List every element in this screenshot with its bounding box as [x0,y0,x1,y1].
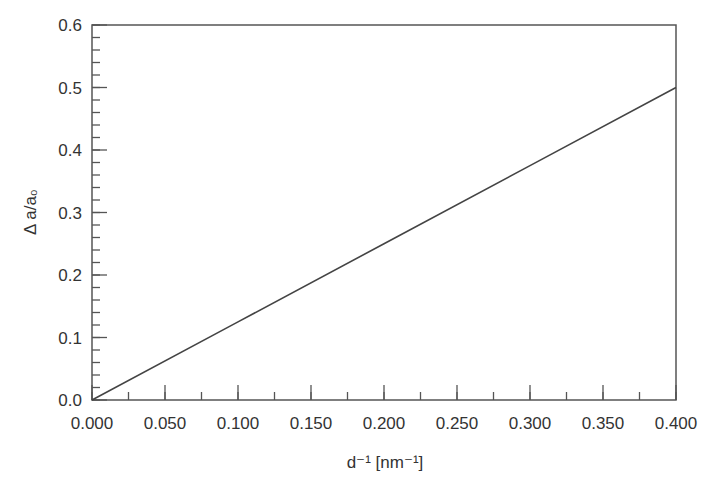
y-axis-label: Δ a/a₀ [21,189,40,235]
x-axis-label: d⁻¹ [nm⁻¹] [347,453,424,472]
y-tick-labels: 0.00.10.20.30.40.50.6 [58,16,82,410]
x-tick-label: 0.250 [436,414,479,433]
x-tick-labels: 0.0000.0500.1000.1500.2000.2500.3000.350… [71,414,698,433]
y-tick-label: 0.1 [58,329,82,348]
y-tick-label: 0.3 [58,204,82,223]
x-tick-label: 0.350 [582,414,625,433]
x-tick-label: 0.000 [71,414,114,433]
major-ticks [92,25,676,400]
x-tick-label: 0.050 [144,414,187,433]
x-tick-label: 0.100 [217,414,260,433]
y-tick-label: 0.6 [58,16,82,35]
y-tick-label: 0.0 [58,391,82,410]
x-tick-label: 0.400 [655,414,698,433]
y-tick-label: 0.2 [58,266,82,285]
x-tick-label: 0.150 [290,414,333,433]
y-tick-label: 0.5 [58,79,82,98]
line-chart: 0.0000.0500.1000.1500.2000.2500.3000.350… [0,0,711,491]
x-tick-label: 0.200 [363,414,406,433]
y-tick-label: 0.4 [58,141,82,160]
data-line [92,88,676,401]
plot-frame [92,25,676,400]
minor-ticks [92,25,676,400]
x-tick-label: 0.300 [509,414,552,433]
